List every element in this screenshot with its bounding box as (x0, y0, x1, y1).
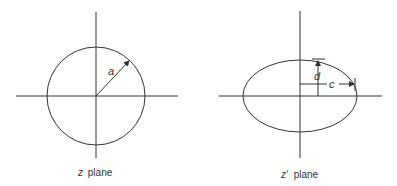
z-plane-caption: z plane (77, 167, 113, 178)
d-label: d (314, 70, 321, 82)
conformal-map-diagram: a z plane d c z′ plane (0, 0, 397, 186)
z-plane-diagram: a z plane (16, 12, 178, 178)
radius-label: a (108, 65, 114, 77)
c-label: c (329, 78, 335, 90)
z-prime-plane-caption: z′ plane (280, 169, 319, 180)
z-prime-plane-diagram: d c z′ plane (219, 11, 382, 180)
